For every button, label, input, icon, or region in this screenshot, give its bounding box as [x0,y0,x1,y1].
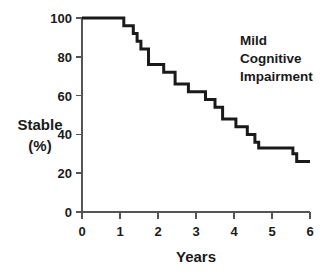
x-tick-label-0: 0 [78,224,85,239]
annotation-line-cognitive: Cognitive [240,51,302,66]
x-tick-label-2: 2 [154,224,161,239]
y-axis-title-line1: Stable [17,116,62,133]
survival-step-curve [82,18,310,162]
y-tick-label-20: 20 [58,166,72,181]
chart-canvas: 100 80 60 40 20 0 0 1 2 3 4 5 6 Years St… [0,0,330,278]
annotation-line-impairment: Impairment [240,69,313,84]
x-tick-label-1: 1 [116,224,123,239]
y-tick-label-0: 0 [65,205,72,220]
x-tick-label-4: 4 [230,224,238,239]
y-tick-label-80: 80 [58,50,72,65]
x-tick-label-3: 3 [192,224,199,239]
x-axis-ticks [82,212,310,219]
x-axis-title: Years [176,248,216,265]
x-tick-label-5: 5 [268,224,275,239]
y-axis-title-line2: (%) [28,137,51,154]
y-tick-label-60: 60 [58,89,72,104]
y-axis-ticks [76,18,82,212]
y-tick-label-100: 100 [50,11,72,26]
annotation-line-mild: Mild [240,33,267,48]
x-tick-label-6: 6 [306,224,313,239]
kaplan-meier-chart: 100 80 60 40 20 0 0 1 2 3 4 5 6 Years St… [0,0,330,278]
